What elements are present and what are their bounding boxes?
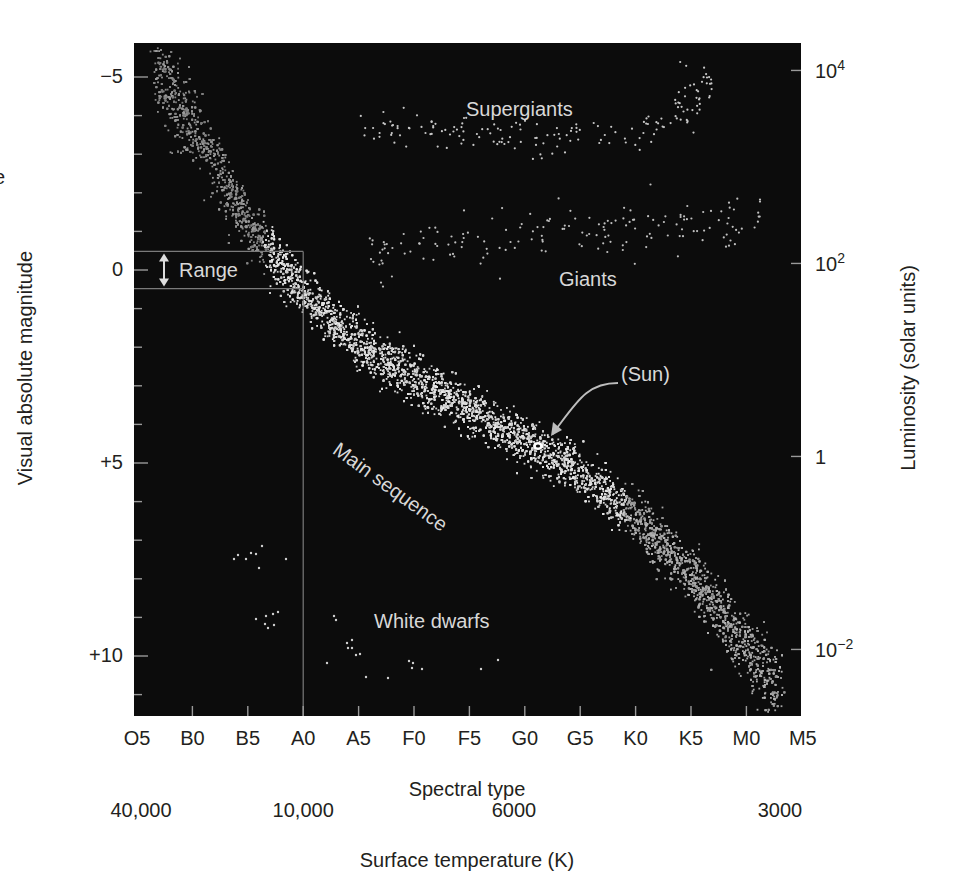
x-tick-label: K5	[661, 728, 721, 748]
x-tick-label: G5	[550, 728, 610, 748]
supergiant-points-upper	[674, 61, 703, 134]
arrow-down-icon	[159, 279, 169, 287]
temperature-tick-label: 10,000	[253, 800, 353, 820]
temperature-tick-label: 3000	[730, 800, 830, 820]
clipped-text-fragment: e	[0, 166, 5, 189]
label-supergiants: Supergiants	[466, 98, 573, 120]
exponent: 4	[837, 57, 845, 73]
label-giants: Giants	[559, 268, 617, 290]
y-axis-title-left: Visual absolute magnitude	[14, 251, 36, 485]
x-tick-label: K0	[606, 728, 666, 748]
x-tick-label: F5	[439, 728, 499, 748]
y-tick-label-right: 1	[815, 447, 826, 467]
label-white-dwarfs: White dwarfs	[374, 610, 490, 632]
sun-marker-center	[536, 444, 540, 447]
plot-area: Supergiants Giants Main sequence White d…	[134, 43, 801, 716]
y-tick-label-left: +5	[63, 452, 123, 472]
y-tick-label-left: −5	[63, 66, 123, 86]
x-tick-label: G0	[495, 728, 555, 748]
exponent: 2	[837, 250, 845, 266]
y-tick-label-right: 102	[815, 254, 845, 274]
y-tick-label-left: 0	[63, 259, 123, 279]
label-sun: (Sun)	[621, 363, 670, 385]
y-tick-label-right: 10−2	[815, 640, 853, 660]
x-tick-label: B5	[218, 728, 278, 748]
x-axis-title: Spectral type	[409, 778, 526, 800]
x-tick-label: A0	[273, 728, 333, 748]
x-tick-label: M5	[773, 728, 833, 748]
y-tick-label-left: +10	[63, 645, 123, 665]
x-tick-label: O5	[107, 728, 167, 748]
arrow-up-icon	[159, 253, 169, 261]
y-tick-label-right: 104	[815, 61, 845, 81]
temperature-tick-label: 40,000	[91, 800, 191, 820]
x-tick-label: F0	[384, 728, 444, 748]
label-range: Range	[179, 259, 238, 281]
sun-pointer-line	[557, 383, 618, 428]
exponent: −2	[837, 636, 853, 652]
x-axis-title-secondary: Surface temperature (K)	[360, 849, 575, 871]
x-tick-label: M0	[716, 728, 776, 748]
x-tick-label: B0	[162, 728, 222, 748]
y-axis-title-right: Luminosity (solar units)	[897, 265, 919, 471]
x-tick-label: A5	[329, 728, 389, 748]
temperature-tick-label: 6000	[464, 800, 564, 820]
